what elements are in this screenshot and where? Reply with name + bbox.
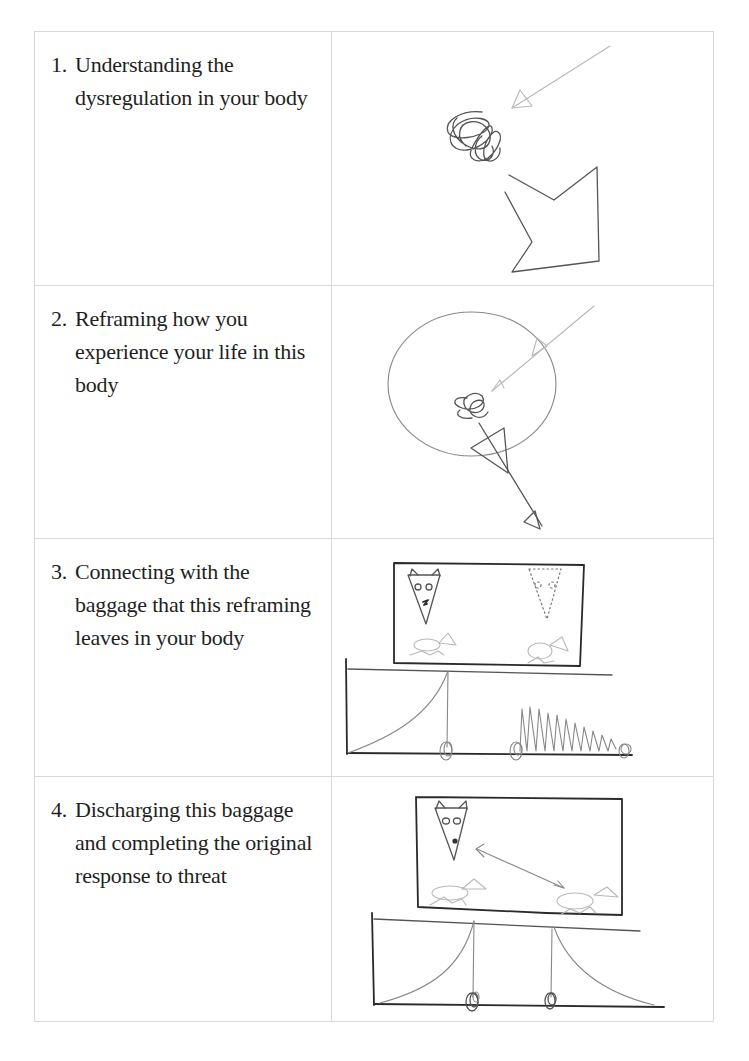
ghost-wolf-head-icon: [529, 569, 561, 619]
step-description: Discharging this baggage and completing …: [69, 793, 321, 892]
step-label: 1. Understanding the dysregulation in yo…: [51, 48, 321, 114]
step-drawing-cell: [332, 539, 713, 776]
step-row-1: 1. Understanding the dysregulation in yo…: [35, 32, 713, 285]
wolf-head-icon: [435, 801, 467, 860]
prey-animal-icon: [528, 637, 568, 663]
step-row-4: 4. Discharging this baggage and completi…: [35, 776, 713, 1021]
step-description: Reframing how you experience your life i…: [69, 302, 321, 401]
scribble-burst-illustration: [332, 32, 714, 285]
step-drawing-cell: [332, 32, 713, 285]
incoming-arrow-icon: [512, 46, 610, 108]
step-drawing-cell: [332, 777, 713, 1021]
discharge-graph-illustration: [332, 777, 714, 1022]
step-description: Connecting with the baggage that this re…: [69, 555, 321, 654]
step-label: 4. Discharging this baggage and completi…: [51, 793, 321, 892]
coil-icon: [619, 744, 631, 758]
boundary-circle-icon: [388, 312, 556, 456]
step-number: 1.: [51, 48, 69, 114]
prey-animal-icon: [430, 879, 486, 905]
prey-animal-icon: [410, 633, 456, 655]
outgoing-arrow-icon: [505, 167, 599, 272]
step-number: 4.: [51, 793, 69, 892]
prey-animal-icon: [557, 887, 618, 915]
step-number: 2.: [51, 302, 69, 401]
scribble-icon: [455, 394, 488, 419]
step-drawing-cell: [332, 286, 713, 538]
step-label: 3. Connecting with the baggage that this…: [51, 555, 321, 654]
step-text-cell: 1. Understanding the dysregulation in yo…: [35, 32, 332, 285]
step-text-cell: 2. Reframing how you experience your lif…: [35, 286, 332, 538]
step-text-cell: 4. Discharging this baggage and completi…: [35, 777, 332, 1021]
response-graph: [346, 659, 632, 760]
double-arrow-icon: [476, 844, 564, 888]
outgoing-arrow-icon: [471, 423, 542, 529]
wolf-head-icon: [408, 569, 440, 624]
step-label: 2. Reframing how you experience your lif…: [51, 302, 321, 401]
step-description: Understanding the dysregulation in your …: [69, 48, 321, 114]
coil-icon: [440, 742, 452, 760]
step-row-3: 3. Connecting with the baggage that this…: [35, 538, 713, 776]
circle-reframe-illustration: [332, 286, 714, 539]
baggage-graph-illustration: [332, 539, 714, 777]
step-text-cell: 3. Connecting with the baggage that this…: [35, 539, 332, 776]
scribble-icon: [447, 112, 500, 161]
response-graph: [372, 913, 664, 1011]
steps-table: 1. Understanding the dysregulation in yo…: [34, 31, 714, 1022]
step-number: 3.: [51, 555, 69, 654]
step-row-2: 2. Reframing how you experience your lif…: [35, 285, 713, 538]
